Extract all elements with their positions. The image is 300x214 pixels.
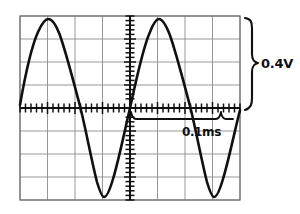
vertical-scale-label: 0.4V — [261, 56, 293, 71]
oscilloscope-figure: 0.1ms 0.4V — [0, 0, 300, 214]
horizontal-scale-label: 0.1ms — [182, 125, 221, 139]
scope-svg: 0.1ms 0.4V — [0, 0, 300, 214]
